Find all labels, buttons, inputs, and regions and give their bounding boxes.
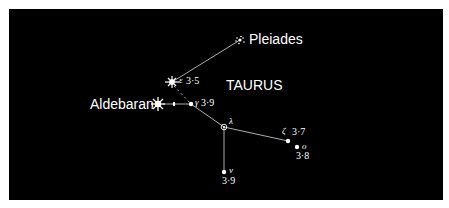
theta-double-star-icon: [173, 102, 175, 106]
line-lambda-zeta: [224, 127, 288, 141]
zeta-magnitude: 3·7: [292, 127, 305, 137]
zeta-star-icon: [286, 139, 290, 143]
line-epsilon-gamma: [174, 86, 191, 104]
pleiades-label: Pleiades: [249, 32, 303, 46]
gamma-star-icon: [189, 102, 193, 106]
aldebaran-label: Aldebaran: [90, 97, 154, 111]
lambda-greek-label: λ: [229, 117, 233, 126]
nu-star-icon: [222, 170, 226, 174]
nu-greek-label: ν: [229, 166, 233, 175]
nu-magnitude: 3·9: [222, 176, 235, 186]
epsilon-magnitude: 3·5: [186, 76, 199, 86]
epsilon-star-icon: [165, 76, 179, 88]
epsilon-greek-label: ε: [179, 76, 183, 85]
gamma-greek-label: γ: [195, 98, 199, 107]
zeta-greek-label: ζ: [282, 127, 286, 136]
omicron-star-icon: [295, 145, 299, 149]
omicron-magnitude: 3·8: [296, 151, 309, 161]
constellation-title: TAURUS: [226, 78, 283, 92]
pleiades-cluster-icon: [235, 36, 245, 45]
gamma-magnitude: 3·9: [201, 98, 214, 108]
